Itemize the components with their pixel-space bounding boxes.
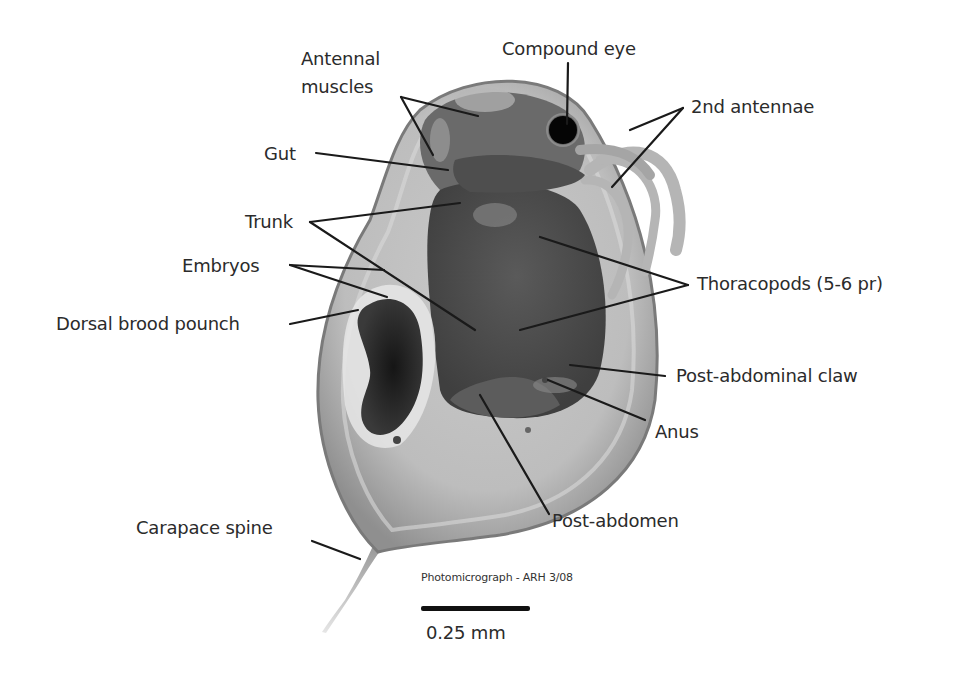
scale-bar <box>421 606 530 611</box>
scale-bar-label: 0.25 mm <box>426 622 505 644</box>
photo-credit: Photomicrograph - ARH 3/08 <box>421 567 573 589</box>
label-antennal-line2: muscles <box>301 73 380 101</box>
label-dorsal-brood-pounch: Dorsal brood pounch <box>56 313 240 335</box>
label-trunk: Trunk <box>245 211 293 233</box>
speck <box>525 427 531 433</box>
label-embryos: Embryos <box>182 255 259 277</box>
label-gut: Gut <box>264 143 296 165</box>
compound-eye-shape <box>547 114 579 146</box>
label-post-abdominal-claw: Post-abdominal claw <box>676 365 858 387</box>
speck <box>393 436 401 444</box>
label-antennal-line1: Antennal <box>301 45 380 73</box>
label-2nd-antennae: 2nd antennae <box>691 96 814 118</box>
daphnia-diagram: Antennal muscles Compound eye 2nd antenn… <box>0 0 979 679</box>
label-compound-eye: Compound eye <box>502 38 636 60</box>
label-carapace-spine: Carapace spine <box>136 517 273 539</box>
label-antennal-muscles: Antennal muscles <box>301 45 380 101</box>
label-post-abdomen: Post-abdomen <box>552 510 679 532</box>
label-thoracopods: Thoracopods (5-6 pr) <box>697 273 883 295</box>
carapace-spine-shape <box>322 548 382 633</box>
label-anus: Anus <box>655 421 699 443</box>
